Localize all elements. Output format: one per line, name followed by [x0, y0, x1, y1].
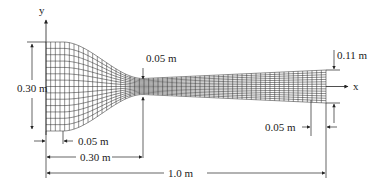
total-length-label: 1.0 m — [168, 167, 194, 179]
computational-mesh — [46, 42, 326, 131]
inlet-height-label: 0.30 m — [17, 82, 48, 94]
outlet-height-label: 0.11 m — [337, 49, 368, 61]
outlet-straight-label: 0.05 m — [265, 121, 296, 133]
y-axis-label: y — [39, 4, 45, 16]
throat-height-label: 0.05 m — [146, 52, 177, 64]
inlet-straight-label: 0.05 m — [78, 135, 109, 147]
outlet-straight-dimension — [302, 100, 337, 178]
throat-position-label: 0.30 m — [80, 151, 111, 163]
x-axis-label: x — [353, 80, 359, 92]
inlet-straight-dimension — [34, 131, 73, 178]
nozzle-diagram: y x 0.30 m 0.05 m 0.11 m 0.05 m 0.30 m — [0, 0, 380, 187]
